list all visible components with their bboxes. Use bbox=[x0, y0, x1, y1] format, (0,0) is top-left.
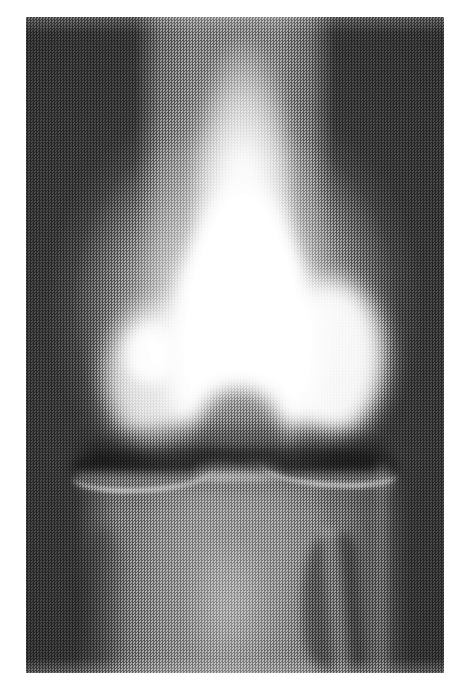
medial-soft-tissue-shadow bbox=[80, 529, 122, 673]
tibial-medullary-streak bbox=[176, 542, 285, 673]
lateral-skin-line bbox=[377, 463, 387, 673]
page-root bbox=[0, 0, 468, 687]
xray-image bbox=[26, 17, 444, 673]
lateral-femoral-condyle bbox=[277, 279, 386, 436]
